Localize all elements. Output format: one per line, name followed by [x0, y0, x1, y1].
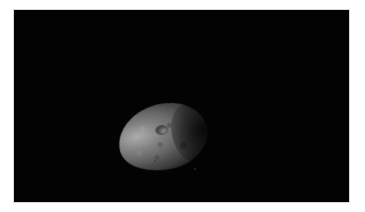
asteroid — [111, 94, 214, 180]
image-frame — [14, 10, 349, 202]
debris-speck — [154, 160, 156, 162]
debris-speck — [194, 168, 196, 170]
